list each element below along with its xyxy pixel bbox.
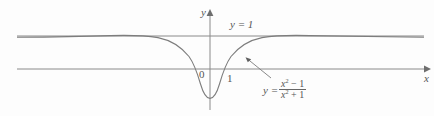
numerator-exponent: 2	[286, 77, 289, 84]
x-axis-label: x	[424, 73, 429, 84]
asymptote-label-text: y = 1	[230, 18, 253, 30]
x-tick-label-one: 1	[227, 73, 233, 84]
y-axis-arrowhead	[207, 9, 214, 16]
curve-equation-fraction: x2 − 1x2 + 1	[279, 79, 306, 100]
curve-equation-label: y =x2 − 1x2 + 1	[263, 80, 307, 101]
fraction-numerator: x2 − 1	[279, 79, 306, 89]
graph-canvas	[0, 0, 434, 116]
fraction-denominator: x2 + 1	[279, 89, 306, 100]
denominator-rest: + 1	[291, 89, 304, 100]
asymptote-label: y = 1	[230, 19, 253, 30]
graph-figure: y x 0 1 y = 1 y =x2 − 1x2 + 1	[0, 0, 434, 116]
denominator-exponent: 2	[286, 88, 289, 95]
origin-label: 0	[199, 69, 205, 80]
numerator-rest: − 1	[291, 78, 304, 89]
curve-equation-prefix: y =	[263, 85, 278, 96]
y-axis-label: y	[201, 7, 206, 18]
function-curve	[17, 35, 424, 98]
